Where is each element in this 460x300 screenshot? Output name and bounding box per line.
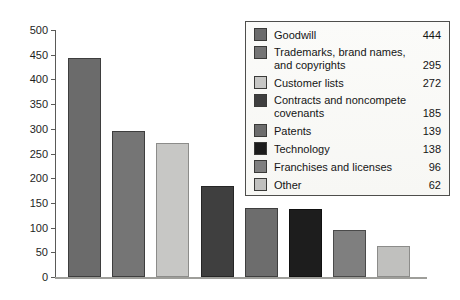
legend-swatch-icon <box>254 160 267 173</box>
y-tick-mark <box>51 129 56 130</box>
y-tick-mark <box>51 79 56 80</box>
legend-label: Trademarks, brand names, and copyrights <box>274 46 417 71</box>
y-tick-label: 0 <box>8 272 48 283</box>
legend-value: 444 <box>417 29 441 42</box>
legend-row-franchises-and-licenses: Franchises and licenses96 <box>254 160 441 173</box>
legend-label: Contracts and noncompete covenants <box>274 94 417 119</box>
bar-technology <box>289 209 322 277</box>
legend-swatch-icon <box>254 28 267 41</box>
legend-value: 62 <box>417 179 441 192</box>
legend-swatch-icon <box>254 124 267 137</box>
y-tick-mark <box>51 104 56 105</box>
legend-swatch-icon <box>254 46 267 59</box>
y-tick-mark <box>51 228 56 229</box>
bar-customer-lists <box>156 143 189 277</box>
legend-row-goodwill: Goodwill444 <box>254 28 441 41</box>
bar-other <box>377 246 410 277</box>
legend-value: 272 <box>417 77 441 90</box>
legend-value: 96 <box>417 161 441 174</box>
bar-trademarks-brand-names-and-copyrights <box>112 131 145 277</box>
y-tick-label: 200 <box>8 173 48 184</box>
y-tick-mark <box>51 154 56 155</box>
legend: Goodwill444Trademarks, brand names, and … <box>245 21 450 196</box>
legend-label: Franchises and licenses <box>274 161 417 174</box>
bar-contracts-and-noncompete-covenants <box>201 186 234 277</box>
legend-label: Customer lists <box>274 77 417 90</box>
legend-row-trademarks-brand-names-and-copyrights: Trademarks, brand names, and copyrights2… <box>254 46 441 71</box>
y-tick-label: 50 <box>8 247 48 258</box>
y-tick-mark <box>51 30 56 31</box>
legend-row-other: Other62 <box>254 178 441 191</box>
legend-swatch-icon <box>254 142 267 155</box>
y-tick-label: 150 <box>8 198 48 209</box>
legend-value: 295 <box>417 59 441 72</box>
y-tick-label: 100 <box>8 223 48 234</box>
legend-value: 139 <box>417 125 441 138</box>
y-tick-mark <box>51 178 56 179</box>
bar-chart-figure: 050100150200250300350400450500 Goodwill4… <box>0 0 460 300</box>
legend-swatch-icon <box>254 76 267 89</box>
y-tick-mark <box>51 55 56 56</box>
y-tick-label: 450 <box>8 50 48 61</box>
legend-label: Other <box>274 179 417 192</box>
legend-row-customer-lists: Customer lists272 <box>254 76 441 89</box>
legend-swatch-icon <box>254 178 267 191</box>
legend-row-technology: Technology138 <box>254 142 441 155</box>
bar-goodwill <box>68 58 101 277</box>
legend-row-contracts-and-noncompete-covenants: Contracts and noncompete covenants185 <box>254 94 441 119</box>
legend-swatch-icon <box>254 94 267 107</box>
y-tick-label: 250 <box>8 149 48 160</box>
legend-label: Goodwill <box>274 29 417 42</box>
x-axis <box>55 277 427 279</box>
y-tick-label: 500 <box>8 25 48 36</box>
legend-value: 138 <box>417 143 441 156</box>
legend-label: Patents <box>274 125 417 138</box>
y-tick-label: 300 <box>8 124 48 135</box>
legend-row-patents: Patents139 <box>254 124 441 137</box>
legend-value: 185 <box>417 107 441 120</box>
bar-patents <box>245 208 278 277</box>
bar-franchises-and-licenses <box>333 230 366 277</box>
y-tick-label: 350 <box>8 99 48 110</box>
y-tick-mark <box>51 203 56 204</box>
y-tick-label: 400 <box>8 74 48 85</box>
y-tick-mark <box>51 252 56 253</box>
legend-label: Technology <box>274 143 417 156</box>
